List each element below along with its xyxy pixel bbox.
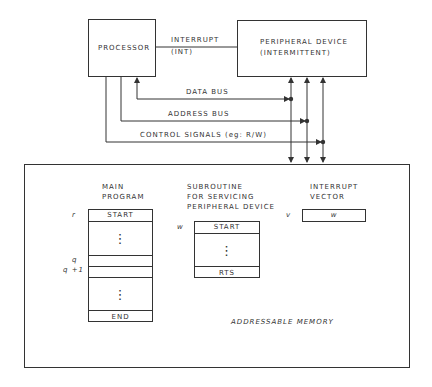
main-cell-q1 [89,266,152,277]
control-signals-label: CONTROL SIGNALS (eg: R/W) [140,131,267,140]
processor-block: PROCESSOR [88,19,156,77]
interrupt-vector-title-1: INTERRUPT [310,183,358,192]
subroutine-memory: START ⋮ RTS [194,221,260,278]
peripheral-device-block: PERIPHERAL DEVICE (INTERMITTENT) [237,20,367,77]
main-program-memory: START ⋮ ⋮ END [88,209,153,322]
subroutine-title-3: PERIPHERAL DEVICE [187,203,275,212]
address-q: q [72,256,77,265]
main-program-title-1: MAIN [102,183,124,192]
data-bus-label: DATA BUS [186,88,229,97]
subroutine-title-2: FOR SERVICING [187,193,254,202]
processor-label: PROCESSOR [98,44,150,53]
address-bus-label: ADDRESS BUS [168,110,229,119]
peripheral-label-line1: PERIPHERAL DEVICE [260,38,348,47]
main-start-cell: START [89,209,152,221]
sub-rts-cell: RTS [195,266,259,278]
addressable-memory-label: ADDRESSABLE MEMORY [231,318,334,327]
interrupt-vector-value: w [303,210,365,221]
sub-ellipsis: ⋮ [195,233,259,266]
peripheral-label-line2: (INTERMITTENT) [260,49,331,58]
sub-start-cell: START [195,221,259,233]
interrupt-label: INTERRUPT [171,36,219,45]
main-ellipsis-1: ⋮ [89,221,152,255]
main-cell-q [89,255,152,266]
main-ellipsis-2: ⋮ [89,277,152,310]
interrupt-vector-cell: w [302,209,366,222]
address-q-plus-1: q +1 [63,266,84,275]
interrupt-vector-title-2: VECTOR [310,193,345,202]
subroutine-title-1: SUBROUTINE [187,183,243,192]
main-program-title-2: PROGRAM [102,193,144,202]
interrupt-int-label: (INT) [171,48,193,57]
main-end-cell: END [89,310,152,322]
address-v: v [286,211,291,220]
address-r: r [72,211,76,220]
address-w: w [177,223,184,232]
